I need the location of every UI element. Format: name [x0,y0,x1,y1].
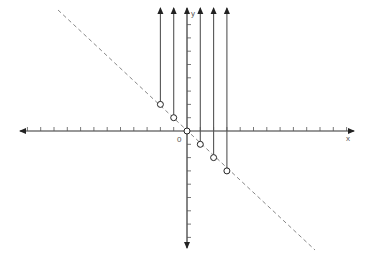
point-marker [184,128,190,134]
open-circle-points [157,101,230,173]
y-axis-label: y [191,9,195,18]
point-marker [157,101,163,107]
point-marker [211,155,217,161]
point-marker [224,168,230,174]
origin-label: 0 [177,135,182,144]
point-marker [171,115,177,121]
x-axis-label: x [346,134,350,143]
coordinate-plane-diagram: x y 0 [0,0,366,267]
point-marker [197,141,203,147]
vertical-rays [160,8,227,168]
